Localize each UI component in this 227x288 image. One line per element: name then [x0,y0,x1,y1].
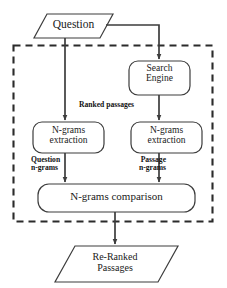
node-ngrams-extraction-passage-shape[interactable] [131,122,202,153]
passage-ngrams-text-line2: n-grams [139,164,166,172]
diagram-canvas: Question Search Engine N-grams extractio… [0,0,227,288]
node-question-shape[interactable] [34,14,113,38]
ranked-passages-text: Ranked passages [79,100,134,109]
edge-question-to-search-engine [106,25,159,59]
question-ngrams-text-line2: n-grams [31,164,60,172]
edge-label-passage-ngrams: Passage n-grams [139,156,166,171]
node-ngrams-extraction-question-shape[interactable] [33,122,104,153]
node-search-engine-shape[interactable] [129,61,190,95]
diagram-vector-layer [0,0,227,288]
node-ngrams-comparison-shape[interactable] [38,184,195,212]
node-re-ranked-passages-shape[interactable] [55,246,178,282]
edge-label-question-ngrams: Question n-grams [31,156,60,171]
edge-label-ranked-passages: Ranked passages [79,101,134,109]
